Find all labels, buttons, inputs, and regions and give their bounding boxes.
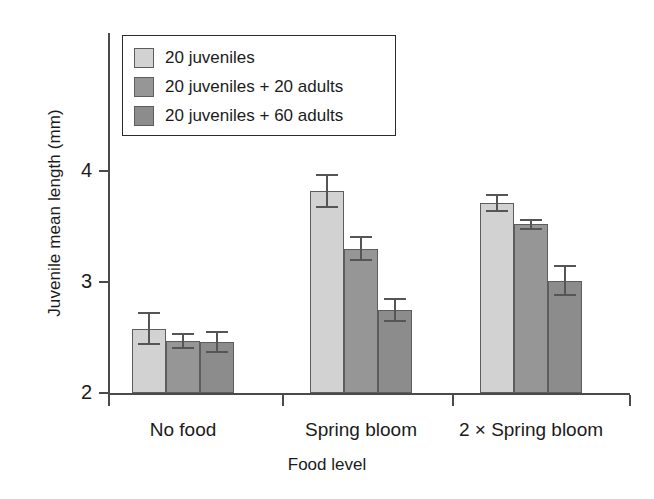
bar	[344, 249, 378, 393]
bar	[480, 203, 514, 393]
legend: 20 juveniles 20 juveniles + 20 adults 20…	[122, 35, 396, 136]
error-bar	[132, 312, 166, 345]
legend-item: 20 juveniles + 60 adults	[134, 101, 395, 130]
error-bar	[514, 219, 548, 230]
bar	[548, 281, 582, 393]
x-axis-tick	[452, 395, 454, 406]
legend-swatch-icon	[134, 48, 154, 68]
x-axis-tick	[629, 395, 631, 406]
legend-item-label: 20 juveniles + 60 adults	[165, 107, 343, 124]
error-bar	[344, 236, 378, 260]
error-bar	[548, 265, 582, 296]
chart-figure: Juvenile mean length (mm) Food level 20 …	[0, 0, 654, 499]
legend-item-label: 20 juveniles + 20 adults	[165, 78, 343, 95]
y-axis-tick	[99, 392, 108, 394]
y-axis-tick	[99, 170, 108, 172]
error-bar	[480, 194, 514, 212]
legend-swatch-icon	[134, 77, 154, 97]
bar	[166, 341, 200, 393]
bar	[378, 310, 412, 393]
legend-item-label: 20 juveniles	[165, 49, 255, 66]
y-axis-tick-label: 3	[64, 271, 92, 291]
error-bar	[310, 174, 344, 207]
y-axis-tick-label: 2	[64, 382, 92, 402]
y-axis-tick	[99, 281, 108, 283]
error-bar	[200, 331, 234, 353]
legend-item: 20 juveniles + 20 adults	[134, 72, 395, 101]
y-axis-tick-label: 4	[64, 160, 92, 180]
bar	[514, 224, 548, 393]
legend-item: 20 juveniles	[134, 43, 395, 72]
x-axis-category-label: 2 × Spring bloom	[421, 419, 641, 441]
bar	[310, 191, 344, 393]
error-bar	[166, 333, 200, 349]
error-bar	[378, 298, 412, 322]
x-axis-tick	[108, 395, 110, 406]
legend-swatch-icon	[134, 106, 154, 126]
x-axis-title: Food level	[0, 455, 654, 475]
x-axis-tick	[282, 395, 284, 406]
